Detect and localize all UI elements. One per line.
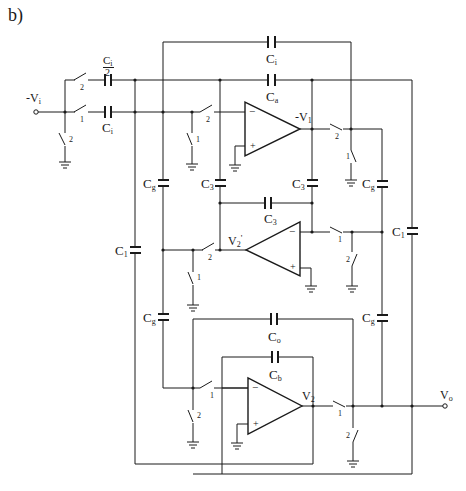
- co-label: Co: [268, 330, 281, 345]
- switch-oa2-in: [202, 243, 214, 250]
- rail-x412: [193, 80, 418, 474]
- c1-left-label: C1: [115, 244, 128, 259]
- switch-oa1-out: [330, 124, 342, 130]
- opamp2-minus: −: [289, 226, 295, 237]
- switch-phase-oa2-out: 1: [338, 236, 342, 244]
- ci-half-branch: [65, 73, 412, 112]
- v1-label: -V1: [295, 111, 312, 125]
- switch-phase-oa1-out-gnd: 1: [346, 153, 350, 161]
- input-label: -Vi: [26, 92, 41, 106]
- c1-right-label: C1: [392, 225, 405, 240]
- oa3-input: [200, 381, 248, 388]
- output-label: Vo: [440, 389, 453, 403]
- ca-label: Ca: [266, 90, 278, 105]
- opamp3-plus: +: [253, 419, 259, 429]
- opamp1-minus: −: [249, 106, 255, 117]
- cg1-label: Cg: [143, 177, 156, 192]
- cg2-label: Cg: [143, 311, 156, 326]
- switch-in-top: [74, 73, 86, 80]
- switch-oa3-out: [333, 401, 345, 407]
- cg-right-label: Cg: [362, 177, 375, 192]
- cb-box: [222, 351, 313, 474]
- switch-phase-oa1-gnd: 1: [196, 136, 200, 144]
- ci-input-label: Ci: [102, 121, 113, 136]
- switch-phase-oa3-out: 1: [338, 410, 342, 418]
- v2p-label: V2': [228, 234, 242, 249]
- opamp3-plus-gnd: [231, 424, 248, 449]
- switch-oa2-out: [330, 227, 342, 233]
- switch-phase-in-top: 2: [80, 84, 84, 92]
- switch-oa3-in: [200, 381, 212, 388]
- opamp1-plus-gnd: [229, 146, 245, 171]
- opamp3-minus: −: [252, 382, 258, 393]
- switch-phase-oa2-in-gnd: 1: [197, 274, 201, 282]
- cb-label: Cb: [269, 368, 282, 383]
- switch-phase-oa3-out-gnd: 2: [346, 432, 350, 440]
- input-terminal: [34, 110, 38, 114]
- input-row: [38, 105, 245, 118]
- cg-right2-label: Cg: [362, 311, 375, 326]
- switch-phase-oa2-out-gnd: 2: [346, 256, 350, 264]
- panel-label: b): [8, 6, 23, 24]
- switch-phase-in-gnd: 2: [69, 136, 73, 144]
- capacitor-ci-top: [268, 36, 275, 48]
- rail-x382: [377, 181, 388, 406]
- c3-right-label: C3: [292, 177, 305, 192]
- switch-phase-oa2-in: 2: [208, 254, 212, 262]
- c3-left-label: C3: [201, 177, 214, 192]
- output-terminal: [443, 404, 447, 408]
- v2-label: V2: [302, 390, 315, 404]
- switch-phase-oa3-in: 1: [210, 392, 214, 400]
- ci-half-label-den: 2: [105, 68, 110, 78]
- c3-mid-label: C3: [264, 212, 277, 227]
- switch-in-main: [74, 105, 86, 112]
- switch-phase-in-main: 1: [80, 116, 84, 124]
- opamp1-plus: +: [250, 141, 256, 151]
- oa3-output: [302, 401, 443, 407]
- capacitor-ca: [268, 74, 275, 86]
- switch-phase-oa3-in-gnd: 2: [197, 412, 201, 420]
- ci-top-label: Ci: [266, 52, 277, 67]
- opamp2-plus-gnd: [300, 268, 317, 292]
- switch-phase-oa1-out: 2: [335, 133, 339, 141]
- switch-phase-oa1-in: 2: [206, 116, 210, 124]
- switch-oa1-in: [200, 105, 212, 112]
- opamp2-plus: +: [290, 262, 296, 272]
- rail-x312: [307, 80, 318, 232]
- top-feedback-wire: [163, 42, 351, 129]
